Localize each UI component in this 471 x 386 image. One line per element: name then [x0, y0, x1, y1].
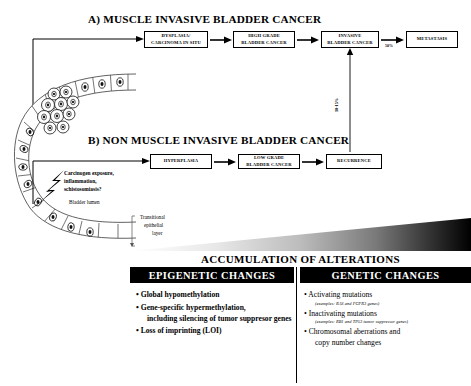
- section-b-title: B) NON MUSCLE INVASIVE BLADDER CANCER: [88, 134, 349, 146]
- bullet-icon: •: [304, 327, 307, 336]
- list-item: • Inactivating mutations (examples: RB1 …: [304, 308, 468, 326]
- epigenetic-changes-list: • Global hypomethylation • Gene-specific…: [136, 289, 292, 338]
- box-hyperplasia[interactable]: HYPERPLASIA: [150, 154, 212, 169]
- box-recurrence[interactable]: RECURRENCE: [326, 154, 382, 169]
- list-item-text: Activating mutations: [308, 290, 372, 299]
- arrow-dysplasia-to-highgrade: [210, 36, 232, 44]
- alterations-gradient-wedge: [130, 218, 471, 252]
- bullet-icon: •: [136, 303, 139, 312]
- list-item-continuation: copy number changes: [309, 338, 468, 349]
- list-item: • Loss of imprinting (LOI): [136, 325, 292, 337]
- list-item: • Activating mutations (examples: RAS an…: [304, 289, 468, 307]
- list-item: • Gene-specific hypermethylation, includ…: [136, 302, 292, 325]
- list-item-text: Gene-specific hypermethylation,: [141, 303, 246, 312]
- section-a-title: A) MUSCLE INVASIVE BLADDER CANCER: [88, 13, 321, 25]
- column-divider: [296, 267, 297, 383]
- metastasis-rate-label: 50%: [385, 43, 393, 48]
- box-dysplasia-cis[interactable]: DYSPLASIA/ CARCINOMA IN SITU: [144, 31, 208, 48]
- bullet-icon: •: [136, 290, 139, 299]
- list-item-text: Inactivating mutations: [309, 309, 377, 318]
- list-item-text: Loss of imprinting (LOI): [141, 326, 222, 335]
- list-item: • Chromosomal aberrations and copy numbe…: [304, 326, 468, 349]
- arrow-hyperplasia-to-lowgrade: [214, 158, 236, 166]
- pathway-b-origin-connector: [30, 152, 154, 204]
- list-item-text: Chromosomal aberrations and: [309, 327, 401, 336]
- list-item-example: (examples: RB1 and TP53 tumor suppressor…: [309, 319, 468, 325]
- list-item: • Global hypomethylation: [136, 289, 292, 301]
- box-low-grade-line1: LOW GRADE: [254, 155, 284, 162]
- box-invasive-line1: INVASIVE: [338, 33, 361, 40]
- bullet-icon: •: [304, 290, 307, 299]
- box-metastasis[interactable]: METASTASIS: [406, 31, 458, 48]
- box-hyperplasia-line1: HYPERPLASIA: [164, 158, 199, 165]
- box-metastasis-line1: METASTASIS: [417, 36, 447, 43]
- box-dysplasia-cis-line1: DYSPLASIA/: [162, 33, 191, 40]
- list-item-example: (examples: RAS and FGFR3 genes): [309, 301, 468, 307]
- box-recurrence-line1: RECURRENCE: [337, 158, 371, 165]
- list-item-text: Global hypomethylation: [141, 290, 220, 299]
- arrow-highgrade-to-invasive: [297, 36, 319, 44]
- list-item-continuation: including silencing of tumor suppresor g…: [141, 314, 292, 325]
- box-high-grade-line2: BLADDER CANCER: [241, 40, 286, 47]
- progression-rate-label: 10-15%: [334, 98, 339, 112]
- genetic-changes-list: • Activating mutations (examples: RAS an…: [304, 289, 468, 350]
- arrow-lowgrade-to-recurrence: [302, 158, 324, 166]
- box-high-grade-line1: HIGH GRADE: [248, 33, 280, 40]
- box-dysplasia-cis-line2: CARCINOMA IN SITU: [151, 40, 201, 47]
- header-genetic-changes: GENETIC CHANGES: [300, 267, 471, 283]
- box-invasive-line2: BLADDER CANCER: [327, 40, 372, 47]
- box-low-grade[interactable]: LOW GRADE BLADDER CANCER: [238, 154, 300, 169]
- diagram-root: A) MUSCLE INVASIVE BLADDER CANCER DYSPLA…: [0, 0, 471, 386]
- box-invasive-bladder-cancer[interactable]: INVASIVE BLADDER CANCER: [321, 31, 379, 48]
- box-high-grade[interactable]: HIGH GRADE BLADDER CANCER: [233, 31, 295, 48]
- box-low-grade-line2: BLADDER CANCER: [246, 162, 291, 169]
- header-epigenetic-changes: EPIGENETIC CHANGES: [130, 267, 294, 283]
- bullet-icon: •: [304, 309, 307, 318]
- accumulation-title: ACCUMULATION OF ALTERATIONS: [130, 253, 471, 265]
- bullet-icon: •: [136, 326, 139, 335]
